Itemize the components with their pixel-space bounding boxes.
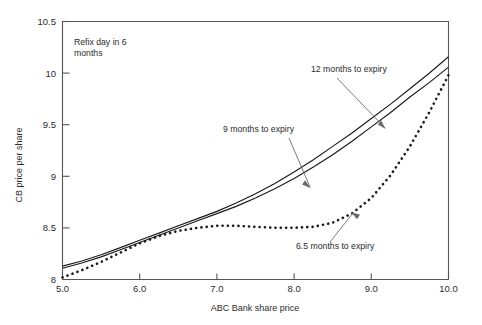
y-tick-label-0: 10.5 xyxy=(38,16,57,27)
chart-background xyxy=(0,0,482,325)
x-tick-label-3: 8.0 xyxy=(287,283,300,294)
x-tick-label-0: 5.0 xyxy=(56,283,69,294)
y-axis-label: CB price per share xyxy=(14,127,24,202)
chart-svg: 10.5 10 9.5 9 8.5 8 5.0 6.0 7.0 xyxy=(0,0,482,325)
annotation-refix-line1: Refix day in 6 xyxy=(74,37,127,47)
chart-figure: 10.5 10 9.5 9 8.5 8 5.0 6.0 7.0 xyxy=(0,0,482,325)
x-tick-label-4: 9.0 xyxy=(365,283,378,294)
annotation-6.5-months-label: 6.5 months to expiry xyxy=(296,241,375,251)
annotation-9-months-label: 9 months to expiry xyxy=(223,124,295,134)
x-tick-label-1: 6.0 xyxy=(133,283,146,294)
y-tick-label-3: 9 xyxy=(51,171,56,182)
x-tick-label-5: 10.0 xyxy=(439,283,458,294)
annotation-12-months-label: 12 months to expiry xyxy=(311,64,387,74)
annotation-refix-line2: months xyxy=(74,48,103,58)
y-tick-label-1: 10 xyxy=(45,68,56,79)
chart-canvas: 10.5 10 9.5 9 8.5 8 5.0 6.0 7.0 xyxy=(0,0,482,325)
x-tick-label-2: 7.0 xyxy=(210,283,223,294)
x-axis-label: ABC Bank share price xyxy=(211,303,300,313)
y-tick-label-4: 8.5 xyxy=(43,222,56,233)
y-tick-label-2: 9.5 xyxy=(43,119,56,130)
